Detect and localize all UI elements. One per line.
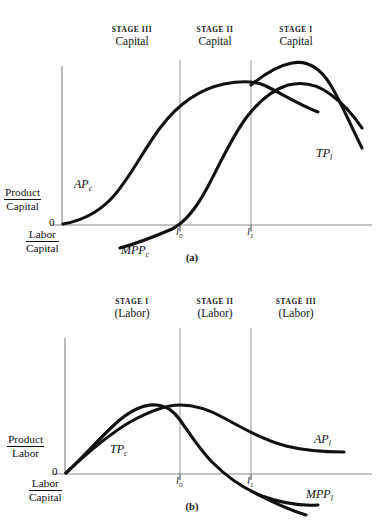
curve-ap-l <box>66 405 344 473</box>
curve-name: AP <box>74 177 89 191</box>
stage-kicker: STAGE I <box>84 298 180 306</box>
curve-name: TP <box>110 442 124 456</box>
curve-name: MPP <box>306 487 331 501</box>
curve-name: TP <box>316 146 330 160</box>
y-axis-numerator: Product <box>7 433 44 447</box>
curve-label-tp-c: TPc <box>110 442 127 458</box>
tick-subscript: 0 <box>179 232 183 240</box>
stage-label-a-1: STAGE III Capital <box>84 26 180 47</box>
origin-label-b: 0 <box>52 465 58 477</box>
curve-subscript: c <box>124 449 127 458</box>
curve-subscript: l <box>330 153 332 162</box>
y-axis-label-a: Product Capital <box>4 186 41 212</box>
x-tick-label-a-l1: l1 <box>247 226 253 240</box>
y-axis-denominator: Capital <box>4 200 41 213</box>
tick-subscript: 1 <box>250 232 254 240</box>
stage-kicker: STAGE III <box>248 298 344 306</box>
origin-label-a: 0 <box>49 216 55 228</box>
figure-panel-b: STAGE I (Labor) STAGE II (Labor) STAGE I… <box>0 262 384 520</box>
stage-label-b-3: STAGE III (Labor) <box>248 298 344 319</box>
y-axis-denominator: Labor <box>7 447 44 460</box>
curve-subscript: l <box>329 439 331 448</box>
y-axis-label-b: Product Labor <box>7 433 44 459</box>
y-axis-numerator: Product <box>4 186 41 200</box>
stage-kicker: STAGE I <box>248 26 344 34</box>
x-tick-label-a-l0: l0 <box>176 226 182 240</box>
x-axis-label-b: Labor Capital <box>29 477 62 503</box>
x-axis-label-a: Labor Capital <box>26 228 59 254</box>
stage-label-b-1: STAGE I (Labor) <box>84 298 180 319</box>
curve-name: AP <box>314 432 329 446</box>
stage-sub: Capital <box>84 35 180 47</box>
curve-label-tp-l: TPl <box>316 146 332 162</box>
curve-label-ap-c: APc <box>74 177 92 193</box>
curve-ap-c <box>63 82 318 224</box>
curve-label-ap-l: APl <box>314 432 331 448</box>
x-tick-label-b-l0: l0 <box>176 475 182 489</box>
stage-sub: (Labor) <box>84 307 180 319</box>
curve-tp-c <box>66 405 318 505</box>
curve-mpp-c <box>120 83 362 248</box>
stage-sub: (Labor) <box>248 307 344 319</box>
caption-b: (b) <box>0 501 384 512</box>
stage-kicker: STAGE III <box>84 26 180 34</box>
tick-subscript: 1 <box>250 481 254 489</box>
x-axis-numerator: Labor <box>29 477 62 491</box>
stage-label-a-3: STAGE I Capital <box>248 26 344 47</box>
figure-panel-a: STAGE III Capital STAGE II Capital STAGE… <box>0 0 384 262</box>
curve-subscript: c <box>89 184 92 193</box>
x-tick-label-b-l1: l1 <box>247 475 253 489</box>
stage-sub: Capital <box>248 35 344 47</box>
x-axis-numerator: Labor <box>26 228 59 242</box>
tick-subscript: 0 <box>179 481 183 489</box>
